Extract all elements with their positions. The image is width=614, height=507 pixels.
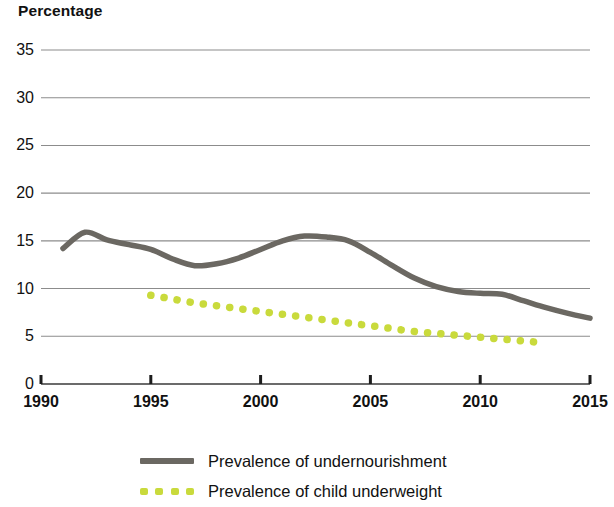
legend-dot — [186, 488, 194, 495]
legend-item-child-underweight: Prevalence of child underweight — [140, 476, 614, 506]
legend-label-child-underweight: Prevalence of child underweight — [208, 482, 442, 501]
series-line-0 — [63, 232, 590, 318]
legend-dot — [171, 488, 179, 495]
chart-container: Percentage 05101520253035 19901995200020… — [0, 0, 614, 507]
legend-line-dotted-icon — [140, 488, 194, 495]
chart-legend: Prevalence of undernourishment Prevalenc… — [140, 446, 614, 506]
legend-dot — [140, 488, 148, 495]
legend-swatch-solid — [140, 452, 194, 470]
plot-area — [0, 0, 614, 507]
legend-item-undernourishment: Prevalence of undernourishment — [140, 446, 614, 476]
legend-swatch-dotted — [140, 482, 194, 500]
x-axis-ticks — [41, 375, 590, 384]
legend-label-undernourishment: Prevalence of undernourishment — [208, 452, 446, 471]
legend-line-solid-icon — [140, 458, 194, 464]
data-series-layer — [63, 232, 590, 343]
legend-dot — [155, 488, 163, 495]
